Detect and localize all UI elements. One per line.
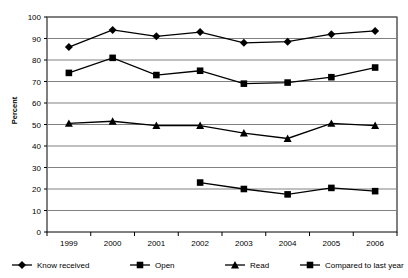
y-axis-tick-label: 60: [32, 99, 41, 108]
data-point-diamond: [18, 261, 26, 269]
data-point-square: [109, 55, 116, 62]
x-axis-tick-label: 2005: [322, 239, 340, 248]
data-point-square: [197, 179, 204, 186]
data-point-square: [372, 188, 379, 195]
data-point-square: [328, 185, 335, 192]
y-axis-tick-label: 10: [32, 207, 41, 216]
y-axis-tick-label: 70: [32, 78, 41, 87]
legend-item-read[interactable]: Read: [225, 261, 269, 270]
x-axis-tick-label: 2003: [235, 239, 253, 248]
y-axis-tick-label: 40: [32, 142, 41, 151]
y-axis-tick-label: 100: [28, 13, 42, 22]
x-axis-tick-label: 1999: [60, 239, 78, 248]
x-axis-tick-label: 2001: [147, 239, 165, 248]
data-point-square: [197, 67, 204, 74]
y-axis-tick-label: 0: [37, 228, 42, 237]
legend-label: Compared to last year: [325, 261, 404, 270]
y-axis-tick-label: 90: [32, 35, 41, 44]
x-axis-tick-label: 2006: [366, 239, 384, 248]
data-point-square: [284, 191, 291, 198]
legend-label: Know received: [37, 261, 89, 270]
data-point-square: [284, 79, 291, 86]
data-point-square: [66, 70, 73, 77]
y-axis-tick-label: 50: [32, 121, 41, 130]
data-point-square: [307, 262, 314, 269]
data-point-square: [241, 80, 248, 87]
y-axis-tick-label: 80: [32, 56, 41, 65]
legend-label: Open: [155, 261, 175, 270]
y-axis-tick-label: 30: [32, 164, 41, 173]
x-axis-tick-label: 2004: [279, 239, 297, 248]
legend-item-open[interactable]: Open: [130, 261, 175, 270]
data-point-square: [241, 186, 248, 193]
data-point-square: [153, 72, 160, 79]
data-point-square: [137, 262, 144, 269]
legend-label: Read: [250, 261, 269, 270]
line-chart: Percent 01020304050607080901001999200020…: [0, 0, 408, 278]
data-point-square: [372, 64, 379, 71]
legend-item-know-received[interactable]: Know received: [12, 261, 89, 270]
x-axis-tick-label: 2002: [191, 239, 209, 248]
data-point-square: [328, 74, 335, 81]
plot-area: 0102030405060708090100199920002001200220…: [0, 0, 408, 278]
x-axis-tick-label: 2000: [104, 239, 122, 248]
legend-item-compared-to-last-year[interactable]: Compared to last year: [300, 261, 404, 270]
y-axis-tick-label: 20: [32, 185, 41, 194]
